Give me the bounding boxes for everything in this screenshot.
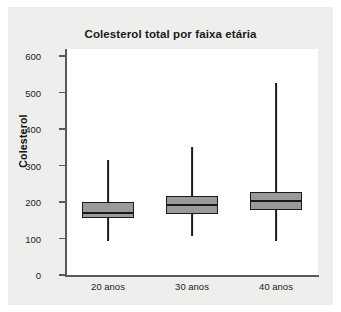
y-axis-tick	[59, 238, 65, 239]
x-axis-line	[65, 275, 319, 277]
y-axis-tick	[59, 55, 65, 56]
x-axis-tick-label: 30 anos	[150, 281, 234, 292]
y-axis-tick-label: 200	[0, 197, 41, 208]
y-axis-tick	[59, 201, 65, 202]
y-axis-tick	[59, 274, 65, 275]
y-axis-tick-label: 100	[0, 233, 41, 244]
y-axis-tick-label: 600	[0, 51, 41, 62]
y-axis-tick	[59, 92, 65, 93]
box-median-line	[82, 212, 134, 214]
box-plot-item	[250, 7, 302, 233]
x-axis-tick-label: 20 anos	[66, 281, 150, 292]
box-median-line	[166, 204, 218, 206]
y-axis-tick-label: 500	[0, 87, 41, 98]
chart-figure: Colesterol total por faixa etária Colest…	[0, 0, 341, 312]
y-axis-tick	[59, 128, 65, 129]
y-axis-tick	[59, 165, 65, 166]
box-whisker	[191, 147, 193, 236]
chart-panel: Colesterol total por faixa etária Colest…	[8, 7, 333, 305]
y-axis-title: Colesterol	[17, 86, 29, 196]
box-plot-item	[82, 7, 134, 233]
y-axis-line	[65, 49, 67, 276]
box-iqr-rect	[82, 202, 134, 218]
y-axis-tick-label: 300	[0, 160, 41, 171]
box-whisker	[275, 83, 277, 241]
box-plot-item	[166, 7, 218, 233]
y-axis-tick-label: 400	[0, 124, 41, 135]
box-median-line	[250, 200, 302, 202]
x-axis-tick-label: 40 anos	[234, 281, 318, 292]
box-whisker	[107, 160, 109, 241]
y-axis-tick-label: 0	[0, 270, 41, 281]
